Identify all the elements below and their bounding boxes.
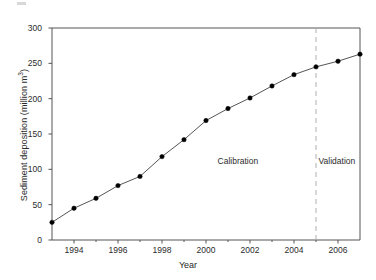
data-point-markers: [50, 52, 362, 225]
data-point-marker: [116, 183, 120, 187]
data-point-marker: [94, 196, 98, 200]
chart-figure: Sediment deposition (million m3) Year 05…: [0, 0, 376, 280]
data-point-marker: [336, 59, 340, 63]
region-label-calibration: Calibration: [218, 156, 259, 166]
data-point-marker: [50, 220, 54, 224]
axis-major-ticks: [49, 28, 339, 244]
data-point-marker: [204, 118, 208, 122]
data-point-marker: [314, 65, 318, 69]
data-point-marker: [226, 106, 230, 110]
data-point-marker: [270, 84, 274, 88]
axes-group: [52, 28, 360, 240]
data-point-marker: [292, 72, 296, 76]
data-point-marker: [182, 137, 186, 141]
series-polyline: [52, 54, 360, 222]
data-point-marker: [358, 52, 362, 56]
data-point-marker: [72, 206, 76, 210]
data-point-marker: [138, 174, 142, 178]
data-series-line: [52, 54, 360, 222]
data-point-marker: [248, 96, 252, 100]
region-label-validation: Validation: [319, 156, 356, 166]
data-point-marker: [160, 154, 164, 158]
plot-area: [0, 0, 376, 280]
